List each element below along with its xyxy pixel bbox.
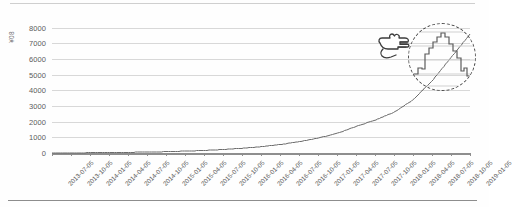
x-axis-tick-mark bbox=[470, 153, 471, 156]
page-bottom-rule bbox=[8, 200, 477, 201]
x-axis-tick-mark bbox=[375, 153, 376, 156]
x-axis-tick-mark bbox=[261, 153, 262, 156]
y-axis-tick-label: 6000 bbox=[29, 55, 46, 64]
y-axis-tick-label: 0 bbox=[42, 149, 46, 158]
x-axis-tick-mark bbox=[356, 153, 357, 156]
line-chart: ¥08 010002000300040005000600070008000 20… bbox=[0, 8, 489, 188]
x-axis-tick-mark bbox=[318, 153, 319, 156]
y-axis-tick-label: 8000 bbox=[29, 23, 46, 32]
x-axis-tick-mark bbox=[242, 153, 243, 156]
x-axis-tick-mark bbox=[223, 153, 224, 156]
x-axis-tick-mark bbox=[185, 153, 186, 156]
x-axis-tick-mark bbox=[299, 153, 300, 156]
y-axis-unit-label: ¥08 bbox=[5, 30, 31, 44]
x-axis-tick-mark bbox=[394, 153, 395, 156]
x-axis-tick-mark bbox=[109, 153, 110, 156]
x-axis-tick-mark bbox=[280, 153, 281, 156]
y-axis-tick-label: 3000 bbox=[29, 102, 46, 111]
x-axis-tick-mark bbox=[90, 153, 91, 156]
y-axis-tick-label: 7000 bbox=[29, 39, 46, 48]
page-top-rule bbox=[10, 3, 475, 4]
y-axis-tick-label: 4000 bbox=[29, 86, 46, 95]
y-axis-tick-label: 1000 bbox=[29, 133, 46, 142]
x-axis-tick-mark bbox=[147, 153, 148, 156]
x-axis-tick-mark bbox=[128, 153, 129, 156]
x-axis-tick-mark bbox=[451, 153, 452, 156]
x-axis-tick-mark bbox=[432, 153, 433, 156]
x-axis-tick-mark bbox=[337, 153, 338, 156]
y-axis-tick-label: 2000 bbox=[29, 117, 46, 126]
zoom-callout-circle bbox=[408, 23, 476, 91]
x-axis-tick-mark bbox=[166, 153, 167, 156]
x-axis-tick-mark bbox=[204, 153, 205, 156]
y-axis-tick-label: 5000 bbox=[29, 70, 46, 79]
x-axis-tick-mark bbox=[413, 153, 414, 156]
pointing-hand-icon bbox=[374, 29, 412, 63]
